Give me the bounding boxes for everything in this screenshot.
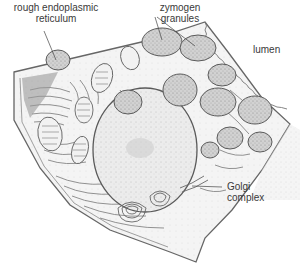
label-rough-er-line1: rough endoplasmic (2, 2, 110, 13)
nucleolus (126, 138, 154, 158)
label-rough-er-line2: reticulum (2, 13, 110, 24)
label-zymogen-line2: granules (150, 13, 210, 24)
label-golgi-complex: Golgi complex (227, 181, 264, 203)
cell-illustration (0, 0, 300, 267)
label-lumen: lumen (253, 44, 280, 55)
label-golgi-line1: Golgi (227, 181, 264, 192)
label-zymogen-granules: zymogen granules (150, 2, 210, 24)
cell-diagram: rough endoplasmic reticulum zymogen gran… (0, 0, 300, 267)
label-zymogen-line1: zymogen (150, 2, 210, 13)
label-rough-er: rough endoplasmic reticulum (2, 2, 110, 24)
label-golgi-line2: complex (227, 192, 264, 203)
